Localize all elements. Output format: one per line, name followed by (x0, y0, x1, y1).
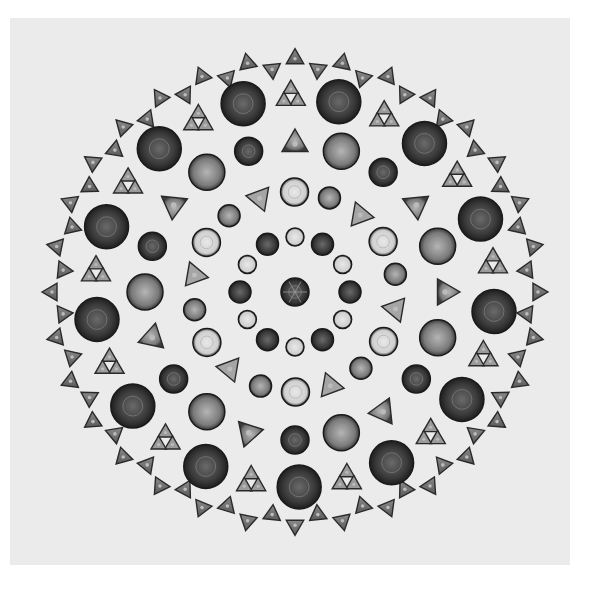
diatom-arrangement-image (0, 0, 598, 589)
